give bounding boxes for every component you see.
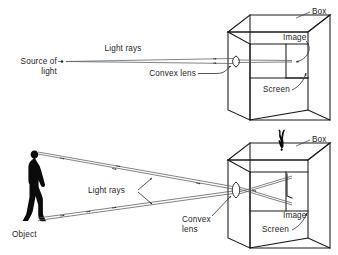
object-label: Object [12, 230, 37, 239]
top-source-of-light-label-line1: Source of [21, 57, 58, 66]
top-image-label: Image [283, 33, 307, 42]
top-screen-label: Screen [263, 85, 290, 94]
top-convex-lens-label: Convex lens [149, 69, 196, 78]
bottom-light-rays-label: Light rays [88, 186, 125, 195]
bottom-image-label: Image [283, 211, 307, 220]
bottom-convex-lens-label-line1: Convex [182, 215, 211, 224]
top-box-label: Box [312, 7, 327, 16]
top-source-of-light-label-line2: light [41, 67, 57, 76]
top-light-rays-label: Light rays [105, 44, 142, 53]
bottom-convex-lens-label-line2: lens [182, 225, 198, 234]
figure-root: Source of light Light rays Convex lens B… [0, 0, 338, 255]
bottom-box-label: Box [312, 135, 327, 144]
optics-diagram-svg: Source of light Light rays Convex lens B… [0, 0, 338, 255]
bottom-screen-label: Screen [262, 225, 289, 234]
